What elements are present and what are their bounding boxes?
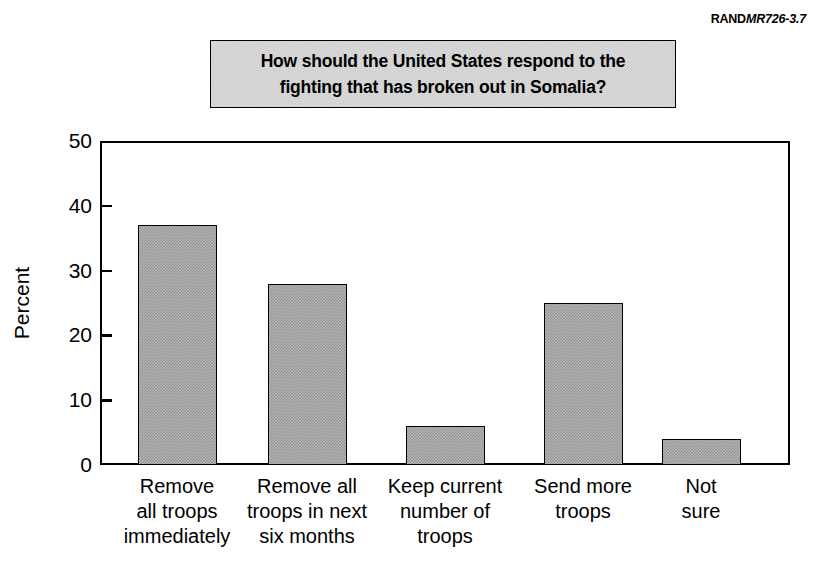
bar-1: [138, 225, 217, 465]
x-axis-label-3: Keep currentnumber oftroops: [376, 474, 514, 549]
y-tick-mark-20: [100, 334, 112, 337]
bar-5: [662, 439, 741, 465]
x-axis-label-line: Remove all: [238, 474, 376, 499]
x-axis-label-2: Remove alltroops in nextsix months: [238, 474, 376, 549]
x-axis-label-line: number of: [376, 499, 514, 524]
y-tick-label-10: 10: [32, 389, 92, 410]
x-axis-label-line: all troops: [108, 499, 246, 524]
x-axis-label-line: Keep current: [376, 474, 514, 499]
y-tick-label-40: 40: [32, 195, 92, 216]
bar-2: [268, 284, 347, 465]
bar-3: [406, 426, 485, 465]
x-axis-label-line: troops: [376, 524, 514, 549]
y-tick-mark-40: [100, 205, 112, 208]
y-axis-title: Percent: [10, 267, 34, 339]
x-axis-label-5: Notsure: [632, 474, 770, 524]
y-tick-label-20: 20: [32, 324, 92, 345]
x-axis-label-line: troops in next: [238, 499, 376, 524]
y-tick-mark-30: [100, 270, 112, 273]
y-tick-mark-10: [100, 399, 112, 402]
x-axis-label-line: Remove: [108, 474, 246, 499]
bar-4: [544, 303, 623, 465]
y-tick-label-30: 30: [32, 260, 92, 281]
bar-chart: Percent 01020304050 Removeall troopsimme…: [0, 0, 822, 577]
x-axis-label-1: Removeall troopsimmediately: [108, 474, 246, 549]
y-tick-label-0: 0: [32, 454, 92, 475]
x-axis-label-line: Not: [632, 474, 770, 499]
x-axis-label-line: immediately: [108, 524, 246, 549]
x-axis-label-line: sure: [632, 499, 770, 524]
y-tick-label-50: 50: [32, 130, 92, 151]
x-axis-label-line: six months: [238, 524, 376, 549]
